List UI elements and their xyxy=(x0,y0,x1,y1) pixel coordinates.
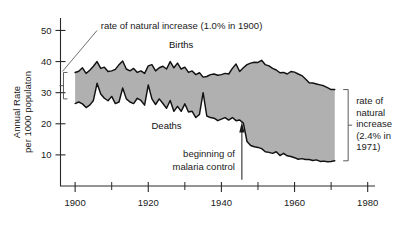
y-tick-label-50: 50 xyxy=(41,25,52,36)
right-annotation-line-4: (2.4% in xyxy=(356,130,391,141)
chart-container: 102030405019001920194019601980BirthsDeat… xyxy=(0,0,411,233)
x-tick-label-1920: 1920 xyxy=(138,197,159,208)
y-tick-label-40: 40 xyxy=(41,56,52,67)
right-annotation-line-3: increase xyxy=(356,118,392,129)
births-series-label: Births xyxy=(169,39,194,50)
x-tick-label-1940: 1940 xyxy=(211,197,232,208)
left-annotation-leader-line xyxy=(62,30,97,71)
y-tick-label-10: 10 xyxy=(41,149,52,160)
left-natural-increase-bracket xyxy=(63,72,67,98)
right-annotation-line-2: natural xyxy=(356,107,385,118)
y-axis-title-line1: Annual Rate xyxy=(11,86,22,138)
malaria-annotation-line-2: malaria control xyxy=(173,161,235,172)
right-natural-increase-bracket xyxy=(343,90,348,161)
y-tick-label-30: 30 xyxy=(41,87,52,98)
left-annotation-label: rate of natural increase (1.0% in 1900) xyxy=(101,20,263,31)
x-tick-label-1980: 1980 xyxy=(357,197,378,208)
demographic-transition-chart: 102030405019001920194019601980BirthsDeat… xyxy=(0,0,411,233)
right-annotation-line-5: 1971) xyxy=(356,141,380,152)
deaths-series-label: Deaths xyxy=(151,120,181,131)
y-tick-label-20: 20 xyxy=(41,118,52,129)
malaria-annotation-line-1: beginning of xyxy=(183,148,235,159)
y-axis-title-line2: per 1000 populaton xyxy=(22,71,33,153)
births-deaths-gap-area xyxy=(75,60,335,161)
x-tick-label-1900: 1900 xyxy=(65,197,86,208)
right-annotation-line-1: rate of xyxy=(356,95,383,106)
x-tick-label-1960: 1960 xyxy=(284,197,305,208)
